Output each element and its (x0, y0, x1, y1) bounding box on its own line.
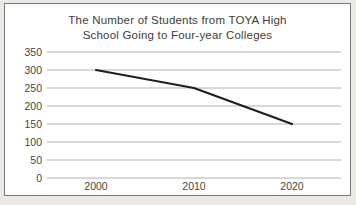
y-tick-label: 150 (24, 118, 42, 130)
x-tick-label: 2010 (182, 180, 206, 192)
y-tick-label: 350 (24, 46, 42, 58)
y-tick-label: 300 (24, 64, 42, 76)
y-tick-label: 200 (24, 100, 42, 112)
x-tick-label: 2000 (84, 180, 108, 192)
y-tick-label: 250 (24, 82, 42, 94)
line-chart: 350300250200150100500200020102020 (0, 0, 356, 205)
x-tick-label: 2020 (280, 180, 304, 192)
y-tick-label: 0 (36, 172, 42, 184)
data-line (96, 70, 292, 124)
y-tick-label: 100 (24, 136, 42, 148)
y-tick-label: 50 (30, 154, 42, 166)
chart-panel: The Number of Students from TOYA High Sc… (0, 0, 356, 205)
